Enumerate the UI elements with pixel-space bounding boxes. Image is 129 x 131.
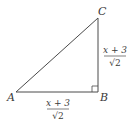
vertex-label-c: C [98,5,107,18]
vertex-label-a: A [6,91,15,104]
right-triangle-diagram: C A B x + 3 √2 x + 3 √2 [0,0,129,131]
right-angle-marker [92,86,98,92]
side-label-ab: x + 3 √2 [46,98,70,121]
side-bc-denominator: √2 [109,58,120,68]
side-bc-numerator: x + 3 [103,45,127,55]
triangle-abc [16,18,98,92]
side-ab-denominator: √2 [52,111,63,121]
vertex-label-b: B [99,91,108,104]
side-label-bc: x + 3 √2 [103,45,127,68]
side-ab-numerator: x + 3 [46,98,70,108]
